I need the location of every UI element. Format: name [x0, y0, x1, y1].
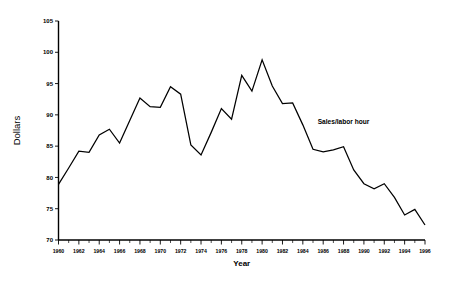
x-tick-label: 1978 [236, 248, 248, 254]
chart-figure: 707580859095100105 196019621964196619681… [0, 0, 451, 282]
x-axis-ticks: 1960196219641966196819701972197419761978… [53, 240, 431, 254]
y-tick-label: 75 [46, 206, 53, 212]
y-tick-label: 105 [43, 18, 54, 24]
y-tick-label: 85 [46, 143, 53, 149]
y-tick-label: 80 [46, 175, 53, 181]
x-tick-label: 1974 [195, 248, 207, 254]
x-tick-label: 1980 [256, 248, 268, 254]
x-tick-label: 1962 [73, 248, 85, 254]
x-tick-label: 1994 [399, 248, 411, 254]
x-axis-title: Year [233, 259, 250, 268]
series-annotation-label: Sales/labor hour [318, 118, 370, 125]
x-tick-label: 1986 [317, 248, 329, 254]
x-tick-label: 1964 [93, 248, 105, 254]
x-tick-label: 1960 [53, 248, 65, 254]
y-axis-title: Dollars [11, 115, 22, 145]
x-tick-label: 1992 [379, 248, 391, 254]
x-tick-label: 1988 [338, 248, 350, 254]
x-tick-label: 1990 [358, 248, 370, 254]
x-tick-label: 1982 [277, 248, 289, 254]
series-line-sales-labor-hour [59, 60, 426, 225]
x-tick-label: 1976 [216, 248, 228, 254]
x-tick-label: 1970 [155, 248, 167, 254]
y-tick-label: 95 [46, 81, 53, 87]
y-axis-ticks: 707580859095100105 [43, 18, 59, 243]
y-tick-label: 100 [43, 49, 54, 55]
y-tick-label: 90 [46, 112, 53, 118]
x-tick-label: 1984 [297, 248, 309, 254]
x-tick-label: 1966 [114, 248, 126, 254]
x-tick-label: 1968 [134, 248, 146, 254]
x-tick-label: 1996 [419, 248, 431, 254]
line-chart: 707580859095100105 196019621964196619681… [0, 0, 451, 282]
axis-lines [59, 21, 426, 240]
x-tick-label: 1972 [175, 248, 187, 254]
y-tick-label: 70 [46, 237, 53, 243]
